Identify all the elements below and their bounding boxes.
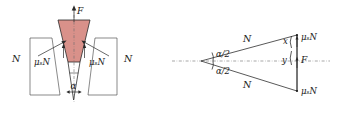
label-right-component-x: x <box>283 36 288 46</box>
label-right-friction-top: μₛN <box>301 32 317 42</box>
label-right-half-angle-bottom: α/2 <box>216 66 230 76</box>
label-left-friction-left: μₛN <box>34 57 50 67</box>
label-left-normal-right: N <box>123 53 133 64</box>
figure-container: F N N μₛN μₛN α N N α/2 α/2 x y F μₛN μₛ… <box>0 0 337 122</box>
label-right-normal-top: N <box>242 33 252 44</box>
label-right-applied-force: F <box>300 55 308 65</box>
label-left-wedge-angle: α <box>71 81 77 91</box>
label-right-friction-bottom: μₛN <box>301 86 317 96</box>
label-right-normal-bottom: N <box>242 79 252 90</box>
label-left-applied-force: F <box>76 6 84 16</box>
label-right-component-y: y <box>281 55 287 65</box>
label-left-normal-left: N <box>11 53 21 64</box>
label-left-friction-right: μₛN <box>89 57 105 67</box>
label-layer: F N N μₛN μₛN α N N α/2 α/2 x y F μₛN μₛ… <box>0 0 337 122</box>
label-right-half-angle-top: α/2 <box>216 49 230 59</box>
